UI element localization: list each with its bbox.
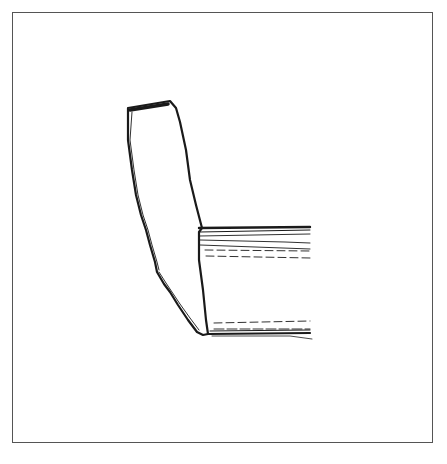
blade-outline — [128, 101, 208, 335]
lower-shaft-lines — [208, 321, 312, 339]
line-drawing — [0, 0, 447, 464]
upper-shaft-lines — [199, 227, 310, 258]
